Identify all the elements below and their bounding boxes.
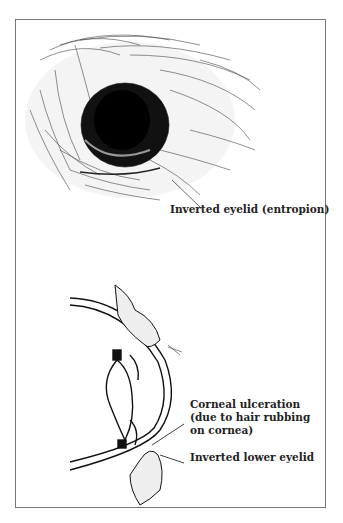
eye-illustrations: [0, 0, 343, 523]
fur-eye-illustration: [25, 35, 260, 207]
corneal-ulceration-label-line1: Corneal ulceration: [190, 398, 300, 411]
corneal-ulceration-label-line3: on cornea): [190, 424, 253, 437]
corneal-ulceration-label-line2: (due to hair rubbing: [190, 411, 310, 424]
eye-cross-section: [70, 285, 184, 505]
entropion-label: Inverted eyelid (entropion): [170, 203, 329, 216]
inverted-lower-eyelid-label: Inverted lower eyelid: [190, 451, 314, 464]
